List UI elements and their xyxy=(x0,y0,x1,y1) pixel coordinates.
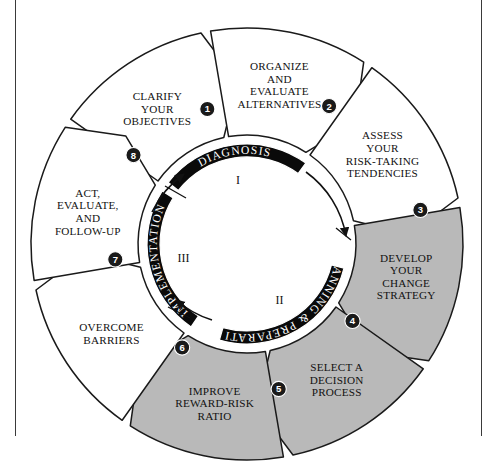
step-badge-number: 4 xyxy=(350,315,356,326)
step-badge-number: 1 xyxy=(205,103,211,114)
wedge-label-line: STRATEGY xyxy=(377,289,436,301)
step-badge-1[interactable]: 1 xyxy=(200,101,215,116)
wedge-label-line: TENDENCIES xyxy=(347,167,418,179)
step-badge-6[interactable]: 6 xyxy=(175,340,190,355)
wedge-label-line: YOUR xyxy=(390,264,423,276)
roman-numeral-1: I xyxy=(236,173,240,187)
wedge-label-line: RISK-TAKING xyxy=(346,155,419,167)
wedge-label-step-4: DEVELOPYOURCHANGESTRATEGY xyxy=(377,252,436,302)
wedge-label-step-7: OVERCOMEBARRIERS xyxy=(79,321,143,346)
wedge-label-line: ASSESS xyxy=(362,129,403,141)
step-badge-number: 7 xyxy=(113,254,118,265)
wedge-label-line: CHANGE xyxy=(382,277,430,289)
band-tick-right xyxy=(336,228,351,240)
wedge-label-line: REWARD-RISK xyxy=(175,397,254,409)
roman-numeral-group: IIIIII xyxy=(177,173,283,308)
phase-label-1: DIAGNOSIS xyxy=(196,144,273,170)
wedge-label-line: PROCESS xyxy=(312,386,362,398)
step-badge-number: 6 xyxy=(179,342,184,353)
wedge-label-line: ORGANIZE xyxy=(250,60,309,72)
wedge-label-line: YOUR xyxy=(366,142,399,154)
step-badge-2[interactable]: 2 xyxy=(322,99,337,114)
wedge-group xyxy=(31,28,463,460)
step-badge-7[interactable]: 7 xyxy=(108,252,123,267)
step-badge-number: 2 xyxy=(326,101,331,112)
wedge-label-step-5: SELECT ADECISIONPROCESS xyxy=(310,361,364,398)
step-badge-number: 3 xyxy=(418,204,423,215)
step-badge-number: 5 xyxy=(276,383,282,394)
step-badge-3[interactable]: 3 xyxy=(413,202,428,217)
wedge-label-line: ALTERNATIVES xyxy=(237,98,321,110)
wedge-label-line: EVALUATE xyxy=(250,85,309,97)
wedge-label-line: YOUR xyxy=(141,103,174,115)
step-badge-8[interactable]: 8 xyxy=(126,148,141,163)
wedge-label-line: AND xyxy=(267,73,292,85)
wedge-label-line: OBJECTIVES xyxy=(123,115,191,127)
wedge-label-line: OVERCOME xyxy=(79,321,143,333)
wedge-label-line: FOLLOW-UP xyxy=(55,225,121,237)
step-badge-number: 8 xyxy=(131,150,136,161)
wedge-label-line: DECISION xyxy=(310,374,364,386)
wedge-label-line: RATIO xyxy=(198,410,232,422)
wedge-label-line: EVALUATE, xyxy=(57,199,119,211)
wedge-label-line: IMPROVE xyxy=(189,385,241,397)
roman-numeral-2: II xyxy=(276,293,284,307)
phase-label-text: DIAGNOSIS xyxy=(196,144,273,170)
step-badge-4[interactable]: 4 xyxy=(345,313,360,328)
roman-numeral-3: III xyxy=(177,251,189,265)
wedge-label-line: AND xyxy=(75,212,100,224)
wedge-label-line: ACT, xyxy=(75,187,100,199)
wedge-label-line: BARRIERS xyxy=(83,334,139,346)
step-badge-5[interactable]: 5 xyxy=(271,381,286,396)
wedge-label-line: SELECT A xyxy=(310,361,363,373)
wedge-label-line: DEVELOP xyxy=(380,252,432,264)
decision-cycle-diagram: DIAGNOSISPLANNING & PREPARATIONIMPLEMENT… xyxy=(0,0,493,462)
wedge-label-line: CLARIFY xyxy=(133,90,182,102)
